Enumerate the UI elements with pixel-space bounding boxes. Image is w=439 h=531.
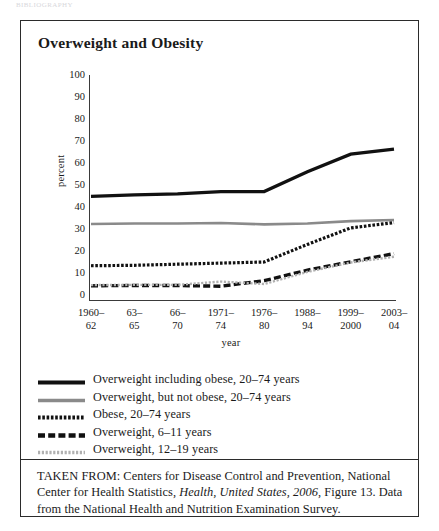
- source-publication: Health, United States, 2006: [179, 485, 318, 499]
- chart-series-line: [91, 223, 394, 266]
- x-axis-tick-label: 1999–2000: [338, 307, 364, 332]
- x-axis-tick-label: 1976–80: [251, 307, 277, 332]
- x-axis-tick-label: 1988–94: [294, 307, 320, 332]
- chart-legend: Overweight including obese, 20–74 yearsO…: [38, 371, 398, 459]
- chart-series-line: [91, 254, 394, 287]
- legend-row: Overweight, 12–19 years: [38, 441, 398, 459]
- x-axis-title: year: [57, 337, 405, 348]
- running-head: BIBLIOGRAPHY: [16, 1, 73, 9]
- legend-swatch-icon: [38, 409, 85, 420]
- y-axis-tick-label: 20: [75, 246, 86, 257]
- legend-label: Obese, 20–74 years: [93, 407, 191, 422]
- figure-title: Overweight and Obesity: [38, 34, 203, 52]
- x-axis-tick-label: 2003–04: [381, 307, 407, 332]
- chart-series-line: [91, 149, 394, 196]
- legend-swatch-icon: [38, 392, 85, 403]
- y-axis-tick-label: 40: [75, 202, 86, 213]
- legend-label: Overweight, but not obese, 20–74 years: [93, 390, 291, 405]
- x-axis-tick-label: 1971–74: [208, 307, 234, 332]
- y-axis-tick-label: 100: [69, 70, 85, 81]
- legend-swatch-icon: [38, 374, 85, 385]
- legend-row: Overweight, but not obese, 20–74 years: [38, 389, 398, 407]
- page-root: BIBLIOGRAPHY Overweight and Obesity perc…: [0, 0, 439, 531]
- y-axis-tick-label: 0: [80, 290, 85, 301]
- y-axis-tick-label: 90: [75, 92, 86, 103]
- x-axis-tick-label: 1960–62: [78, 307, 104, 332]
- y-axis-tick-label: 60: [75, 158, 86, 169]
- y-axis-tick-label: 70: [75, 136, 86, 147]
- y-axis-title: percent: [55, 155, 66, 187]
- figure-box: Overweight and Obesity percent 010203040…: [20, 20, 419, 517]
- legend-row: Overweight including obese, 20–74 years: [38, 371, 398, 389]
- y-axis-tick-label: 50: [75, 180, 86, 191]
- legend-label: Overweight, 12–19 years: [93, 442, 218, 457]
- legend-label: Overweight, 6–11 years: [93, 425, 212, 440]
- legend-row: Obese, 20–74 years: [38, 406, 398, 424]
- source-note: TAKEN FROM: Centers for Disease Control …: [37, 468, 407, 517]
- x-axis-tick-label: 66–70: [170, 307, 186, 332]
- chart-series-line: [91, 220, 394, 224]
- source-divider: [21, 459, 418, 460]
- y-axis-tick-label: 80: [75, 114, 86, 125]
- y-axis-tick-label: 10: [75, 268, 86, 279]
- chart-plot-area: percent 01020304050607080901001960–6263–…: [57, 69, 405, 361]
- plot-inner: 01020304050607080901001960–6263–6566–701…: [89, 75, 401, 307]
- legend-swatch-icon: [38, 444, 85, 455]
- legend-row: Overweight, 6–11 years: [38, 424, 398, 442]
- x-axis-tick-label: 63–65: [126, 307, 142, 332]
- y-axis-tick-label: 30: [75, 224, 86, 235]
- chart-series-layer: [89, 75, 401, 307]
- legend-swatch-icon: [38, 427, 85, 438]
- legend-label: Overweight including obese, 20–74 years: [93, 372, 300, 387]
